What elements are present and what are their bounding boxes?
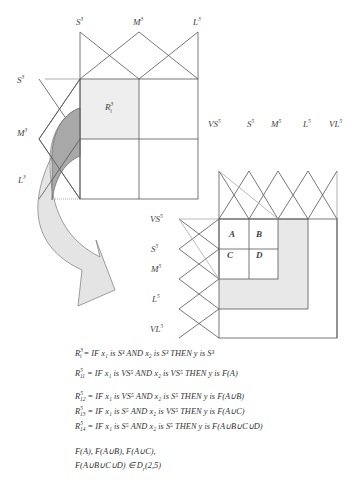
cell-label-ri: R3i <box>105 101 112 114</box>
rule-ri: R3i = IF x₁ is S³ AND x₂ is S³ THEN y is… <box>75 347 214 359</box>
rule-r12: R512 = IF x₁ is VS⁵ AND x₂ is S⁵ THEN y … <box>75 390 244 402</box>
cell-label-b: B <box>256 229 262 239</box>
rule-r11: R511 = IF x₁ is VS⁵ AND x₂ is VS⁵ THEN y… <box>75 367 238 379</box>
mid-label-m: M5 <box>271 118 281 129</box>
rule-r13: R513 = IF x₁ is S⁵ AND x₂ is VS⁵ THEN y … <box>75 405 245 417</box>
top-x-label-l: L3 <box>193 16 201 27</box>
top-y-label-l: L3 <box>18 174 26 185</box>
conclusion-line-1: F(A), F(A∪B), F(A∪C), <box>75 446 156 456</box>
bottom-y-label-l: L5 <box>152 293 160 304</box>
top-y-label-m: M3 <box>17 127 27 138</box>
top-x-label-m: M3 <box>133 16 143 27</box>
cell-label-d: D <box>256 250 263 260</box>
cell-label-a: A <box>229 229 235 239</box>
bottom-y-label-m: M5 <box>151 263 161 274</box>
mid-label-s: S5 <box>247 118 254 129</box>
rule-r14: R514 = IF x₁ is S⁵ AND x₂ is S⁵ THEN y i… <box>75 420 263 432</box>
mid-label-vl: VL5 <box>329 118 342 129</box>
mid-label-vs: VS5 <box>208 118 221 129</box>
bottom-y-label-vs: VS5 <box>150 213 163 224</box>
mid-label-l: L5 <box>303 118 311 129</box>
bottom-y-label-s: S5 <box>151 243 158 254</box>
cell-label-c: C <box>227 250 233 260</box>
top-x-label-s: S3 <box>76 16 83 27</box>
conclusion-line-2: F(A∪B∪C∪D) ∈ Dr(2,5) <box>75 460 161 472</box>
bottom-y-label-vl: VL5 <box>150 323 163 334</box>
top-y-label-s: S3 <box>17 74 24 85</box>
